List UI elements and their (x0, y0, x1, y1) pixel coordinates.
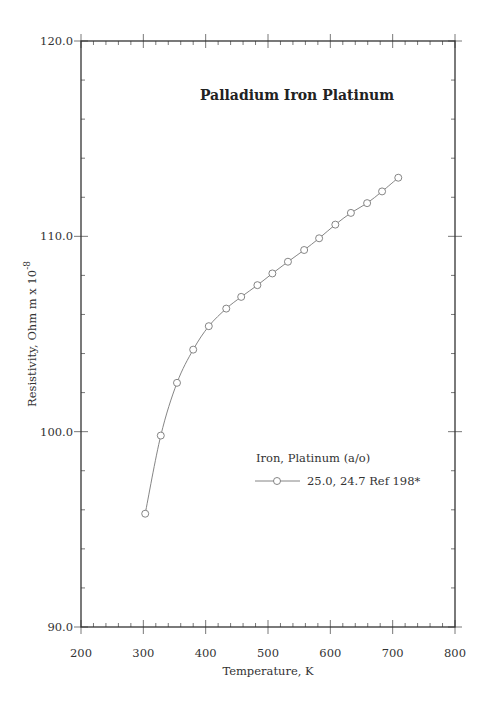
data-point-circle-icon (173, 379, 180, 386)
y-tick-label: 90.0 (47, 620, 73, 634)
x-tick-label: 600 (319, 646, 341, 660)
data-point-circle-icon (269, 270, 276, 277)
y-axis-label-superscript: -8 (22, 261, 32, 270)
y-axis-label-text: Resistivity, Ohm m x 10 (25, 270, 39, 407)
x-tick-label: 300 (132, 646, 154, 660)
data-series (142, 174, 402, 517)
x-tick-label: 400 (195, 646, 217, 660)
x-tick-labels: 200300400500600700800 (70, 646, 466, 660)
data-point-circle-icon (395, 174, 402, 181)
plot-frame (81, 41, 455, 627)
data-point-circle-icon (332, 221, 339, 228)
data-point-circle-icon (301, 247, 308, 254)
data-point-circle-icon (316, 235, 323, 242)
data-point-circle-icon (157, 432, 164, 439)
legend-marker-icon (274, 478, 281, 485)
y-axis-label: Resistivity, Ohm m x 10-8 (22, 261, 39, 407)
y-axis-label-group: Resistivity, Ohm m x 10-8 (22, 261, 39, 407)
data-point-circle-icon (254, 282, 261, 289)
data-point-circle-icon (284, 258, 291, 265)
axis-ticks (74, 34, 462, 634)
x-axis-label: Temperature, K (222, 664, 314, 678)
data-point-circle-icon (205, 323, 212, 330)
chart: 90.0100.0110.0120.0 20030040050060070080… (0, 0, 490, 708)
data-point-circle-icon (364, 200, 371, 207)
data-point-circle-icon (142, 510, 149, 517)
x-tick-label: 200 (70, 646, 92, 660)
y-tick-label: 120.0 (40, 34, 73, 48)
y-tick-label: 110.0 (40, 229, 73, 243)
data-point-circle-icon (223, 305, 230, 312)
y-tick-label: 100.0 (40, 425, 73, 439)
x-tick-label: 800 (444, 646, 466, 660)
y-tick-labels: 90.0100.0110.0120.0 (40, 34, 73, 634)
x-tick-label: 700 (382, 646, 404, 660)
data-point-circle-icon (347, 209, 354, 216)
legend: Iron, Platinum (a/o) 25.0, 24.7 Ref 198* (255, 451, 421, 488)
data-point-circle-icon (379, 188, 386, 195)
chart-title: Palladium Iron Platinum (200, 87, 394, 103)
legend-entry: 25.0, 24.7 Ref 198* (307, 474, 421, 488)
data-point-circle-icon (190, 346, 197, 353)
legend-title: Iron, Platinum (a/o) (256, 451, 370, 465)
x-tick-label: 500 (257, 646, 279, 660)
data-point-circle-icon (238, 293, 245, 300)
